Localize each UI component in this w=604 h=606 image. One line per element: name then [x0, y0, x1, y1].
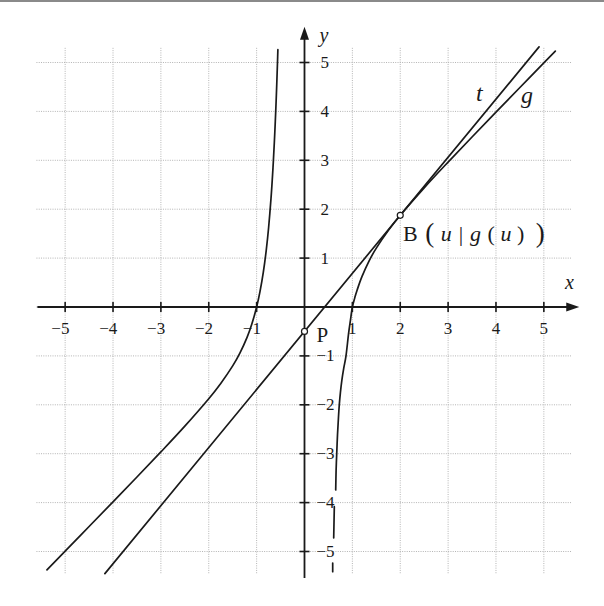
point-label-b-open-paren: (: [425, 218, 434, 248]
series-label-g: g: [521, 82, 533, 108]
point-label-b-close-paren: ): [536, 218, 545, 248]
function-graph: −5−4−3−2−11234554321−1−2−3−4−5 x y t g P…: [0, 0, 604, 606]
point-b-marker: [397, 212, 403, 218]
y-tick-label: −1: [317, 346, 335, 365]
point-label-b: B ( u | g ( u ) ): [403, 218, 545, 248]
point-p-marker: [302, 328, 308, 334]
y-tick-label: 4: [321, 102, 330, 121]
y-tick-label: 2: [321, 200, 330, 219]
x-tick-label: −4: [99, 319, 118, 338]
y-tick-label: −4: [317, 493, 336, 512]
point-label-b-g: g: [470, 221, 481, 246]
y-tick-label: 5: [321, 53, 330, 72]
point-label-p: P: [317, 323, 329, 347]
background: [0, 0, 604, 606]
y-tick-label: 1: [321, 249, 330, 268]
point-label-b-inner-u: u: [500, 221, 511, 246]
x-axis-label: x: [564, 271, 574, 293]
point-label-b-u: u: [441, 221, 452, 246]
y-tick-label: −2: [317, 395, 335, 414]
point-label-b-name: B: [403, 221, 418, 246]
x-tick-label: 4: [492, 319, 501, 338]
point-label-b-inner-close-paren: ): [517, 221, 524, 246]
x-tick-label: −3: [147, 319, 165, 338]
y-tick-label: 3: [321, 151, 330, 170]
x-tick-label: 2: [396, 319, 405, 338]
x-tick-label: −2: [195, 319, 213, 338]
point-label-b-inner-open-paren: (: [488, 221, 495, 246]
x-tick-label: 1: [348, 319, 357, 338]
x-tick-label: 3: [444, 319, 453, 338]
top-border: [0, 0, 604, 2]
x-tick-label: 5: [540, 319, 549, 338]
y-tick-label: −3: [317, 444, 335, 463]
x-tick-label: −1: [243, 319, 261, 338]
point-label-b-bar: |: [459, 221, 463, 246]
y-tick-label: −5: [317, 542, 335, 561]
x-tick-label: −5: [51, 319, 69, 338]
y-axis-label: y: [318, 24, 329, 47]
